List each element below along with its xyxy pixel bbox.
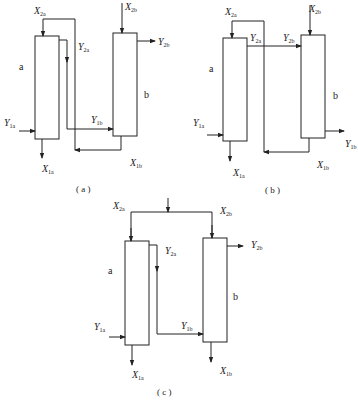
stream-y1b	[157, 269, 203, 334]
label-y1a: Y1a	[193, 117, 205, 129]
label-x2a: X2a	[112, 200, 125, 212]
stream-y2a	[149, 245, 157, 271]
column-a	[35, 36, 59, 139]
stream-x1b-return	[264, 138, 309, 152]
caption-b: ( b )	[265, 185, 280, 195]
column-a	[223, 38, 247, 141]
label-y2a: Y2a	[78, 41, 90, 53]
column-a-label: a	[209, 63, 214, 74]
stream-feed-split	[131, 212, 212, 241]
label-x1a: X1a	[131, 369, 144, 381]
label-x1b: X1b	[219, 365, 232, 377]
caption-c: ( c )	[157, 387, 172, 397]
label-y2b: Y2b	[251, 239, 263, 251]
diagram-a: X2a Y2a X2b Y2b Y1a X1a Y1b X1b a b ( a …	[4, 1, 170, 194]
label-x1a: X1a	[41, 163, 54, 175]
diagram-c: X2a X2b Y2a Y2b Y1a Y1b X1a X1b a b ( c …	[94, 198, 263, 397]
column-b	[301, 35, 325, 138]
label-y1b: Y1b	[345, 138, 357, 150]
column-b-label: b	[333, 90, 338, 101]
label-x1a: X1a	[232, 167, 245, 179]
process-flow-diagram: X2a Y2a X2b Y2b Y1a X1a Y1b X1b a b ( a …	[0, 0, 358, 408]
column-a-label: a	[108, 265, 113, 276]
caption-a: ( a )	[76, 184, 91, 194]
label-x1b: X1b	[129, 157, 142, 169]
label-x2a: X2a	[224, 6, 237, 18]
label-y1b: Y1b	[91, 114, 103, 126]
label-x1b: X1b	[316, 159, 329, 171]
label-y1b: Y1b	[181, 320, 193, 332]
label-y1a: Y1a	[4, 117, 16, 129]
label-y2a: Y2a	[250, 32, 262, 44]
column-b	[113, 33, 137, 136]
label-x2b: X2b	[308, 3, 321, 15]
label-y2a: Y2a	[165, 245, 177, 257]
column-b-label: b	[233, 291, 238, 302]
column-a-label: a	[19, 61, 24, 72]
stream-x1b-return	[75, 136, 121, 150]
label-x2b: X2b	[124, 1, 137, 13]
stream-y1b	[67, 60, 113, 129]
label-y1a: Y1a	[94, 321, 106, 333]
diagram-b: X2a Y2a Y2b X2b Y1a X1a Y1b X1b a b ( b …	[193, 3, 357, 195]
stream-y2a	[59, 40, 67, 62]
column-b-label: b	[144, 89, 149, 100]
label-y2b: Y2b	[158, 36, 170, 48]
column-b	[203, 238, 227, 342]
column-a	[125, 241, 149, 345]
label-x2b: X2b	[219, 205, 232, 217]
label-y2b: Y2b	[283, 32, 295, 44]
label-x2a: X2a	[33, 5, 46, 17]
